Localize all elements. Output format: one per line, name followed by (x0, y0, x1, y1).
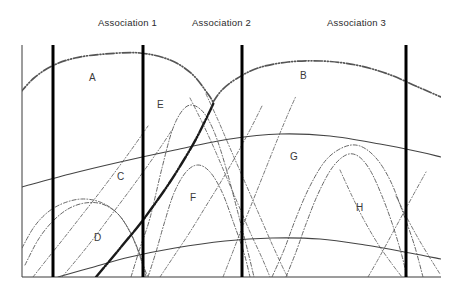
region-label-g: G (290, 151, 298, 162)
curve-F (148, 165, 250, 277)
curve-thin-fall-d (396, 196, 440, 274)
curves-group (20, 53, 441, 277)
association-header-2: Association 2 (192, 17, 251, 28)
curve-thick-diagonal (96, 102, 214, 277)
region-label-c: C (117, 171, 124, 182)
curve-thin-rise-right (223, 96, 296, 277)
curve-D-outer (25, 202, 148, 277)
region-label-e: E (157, 99, 164, 110)
curve-E (131, 105, 254, 277)
association-header-3: Association 3 (327, 17, 386, 28)
curve-H-outer (272, 145, 423, 277)
curve-A (20, 53, 213, 102)
region-label-d: D (94, 232, 101, 243)
association-diagram-svg (0, 0, 457, 289)
curve-thin-rise-b (368, 172, 426, 277)
curve-H-inner (286, 154, 407, 277)
region-label-b: B (300, 70, 307, 81)
curve-thin-fall-left (33, 126, 148, 277)
region-label-h: H (356, 202, 363, 213)
association-header-1: Association 1 (98, 17, 157, 28)
region-label-f: F (190, 192, 196, 203)
curve-thin-rise-a (160, 106, 262, 277)
region-label-a: A (89, 72, 96, 83)
figure-canvas: Association 1Association 2Association 3 … (0, 0, 457, 289)
